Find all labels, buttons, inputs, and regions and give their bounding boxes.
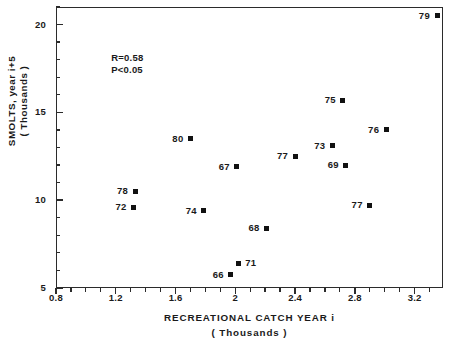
- data-point-marker: [293, 154, 298, 159]
- x-tick-minor: [85, 288, 86, 292]
- data-point-marker: [133, 189, 138, 194]
- data-point-label: 68: [220, 223, 260, 233]
- annotation-correlation: R=0.58: [111, 53, 143, 63]
- x-tick-label: 2.8: [334, 293, 376, 303]
- y-tick-minor: [56, 252, 60, 253]
- y-tick-major: [56, 287, 63, 288]
- x-tick-minor: [429, 288, 430, 292]
- data-point-marker: [236, 261, 241, 266]
- x-tick-minor: [279, 288, 280, 292]
- y-tick-minor: [56, 182, 60, 183]
- x-tick-label: 1.6: [155, 293, 197, 303]
- data-point-marker: [234, 164, 239, 169]
- x-tick-minor: [324, 288, 325, 292]
- y-tick-minor: [56, 77, 60, 78]
- x-tick-minor: [369, 288, 370, 292]
- y-axis-title: SMOLTS, year i+5: [6, 0, 18, 216]
- x-tick-minor: [190, 288, 191, 292]
- y-tick-minor: [56, 164, 60, 165]
- annotation-significance: P<0.05: [111, 65, 143, 75]
- y-tick-minor: [56, 59, 60, 60]
- y-tick-minor: [56, 6, 60, 7]
- plot-area-frame: [56, 7, 443, 288]
- x-tick-label: 1.2: [95, 293, 137, 303]
- x-tick-label: 2: [214, 293, 256, 303]
- y-tick-minor: [56, 147, 60, 148]
- y-tick-minor: [56, 217, 60, 218]
- data-point-label: 77: [248, 151, 288, 161]
- y-tick-minor: [56, 270, 60, 271]
- data-point-label: 78: [88, 186, 128, 196]
- data-point-marker: [201, 208, 206, 213]
- y-tick-major: [56, 112, 63, 113]
- data-point-marker: [131, 205, 136, 210]
- x-tick-minor: [399, 288, 400, 292]
- x-tick-minor: [160, 288, 161, 292]
- data-point-label: 72: [87, 202, 127, 212]
- scatter-plot-figure: 5101520 0.81.21.622.42.83.2 797576807377…: [0, 0, 463, 344]
- x-tick-minor: [339, 288, 340, 292]
- data-point-marker: [435, 13, 440, 18]
- data-point-label: 69: [299, 160, 339, 170]
- data-point-label: 77: [323, 200, 363, 210]
- data-point-marker: [330, 143, 335, 148]
- data-point-marker: [343, 163, 348, 168]
- data-point-label: 79: [390, 11, 430, 21]
- data-point-label: 73: [285, 141, 325, 151]
- y-tick-major: [56, 24, 63, 25]
- y-tick-minor: [56, 129, 60, 130]
- x-axis-title-units: ( Thousands ): [56, 328, 443, 338]
- x-tick-minor: [205, 288, 206, 292]
- x-tick-minor: [309, 288, 310, 292]
- x-tick-minor: [220, 288, 221, 292]
- x-tick-minor: [384, 288, 385, 292]
- data-point-marker: [264, 226, 269, 231]
- y-tick-label-text: 5: [24, 283, 46, 293]
- x-axis-title: RECREATIONAL CATCH YEAR i: [56, 313, 443, 323]
- data-point-label: 74: [157, 206, 197, 216]
- data-point-label: 66: [184, 270, 224, 280]
- x-tick-minor: [100, 288, 101, 292]
- x-tick-label: 0.8: [35, 293, 77, 303]
- data-point-marker: [340, 98, 345, 103]
- data-point-label: 71: [245, 258, 285, 268]
- data-point-marker: [384, 127, 389, 132]
- y-tick-minor: [56, 235, 60, 236]
- x-tick-minor: [250, 288, 251, 292]
- y-axis-title-group: SMOLTS, year i+5 ( Thousands ): [6, 0, 32, 216]
- x-tick-minor: [70, 288, 71, 292]
- x-tick-label: 2.4: [274, 293, 316, 303]
- x-tick-minor: [264, 288, 265, 292]
- y-tick-minor: [56, 41, 60, 42]
- data-point-marker: [188, 136, 193, 141]
- y-tick-major: [56, 199, 63, 200]
- data-point-label: 80: [143, 134, 183, 144]
- x-tick-label: 3.2: [394, 293, 436, 303]
- data-point-label: 67: [190, 162, 230, 172]
- data-point-label: 75: [296, 95, 336, 105]
- x-tick-minor: [145, 288, 146, 292]
- x-tick-minor: [130, 288, 131, 292]
- y-axis-title-units: ( Thousands ): [18, 0, 30, 216]
- data-point-marker: [228, 272, 233, 277]
- data-point-marker: [367, 203, 372, 208]
- data-point-label: 76: [339, 125, 379, 135]
- y-tick-minor: [56, 94, 60, 95]
